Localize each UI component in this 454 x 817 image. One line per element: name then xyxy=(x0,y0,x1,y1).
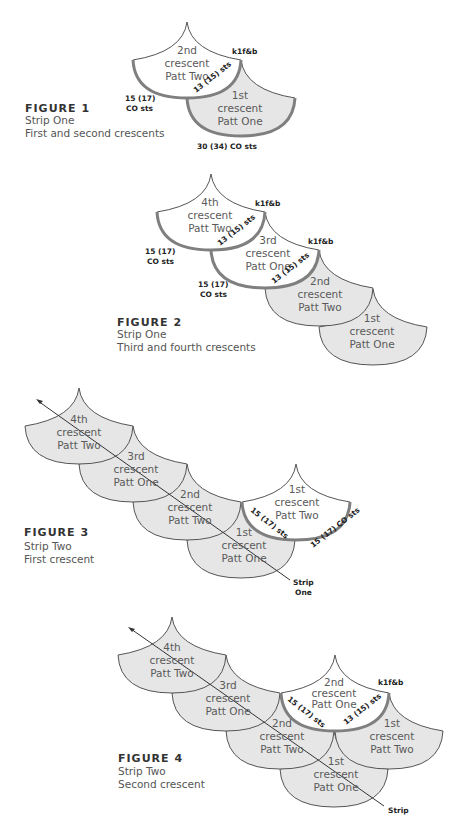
fig1-co-left: 15 (17)CO sts xyxy=(125,94,155,113)
fig3-line-2: First crescent xyxy=(24,553,94,565)
fig1-line-1: Strip One xyxy=(25,114,74,126)
fig3-strip-label: StripOne xyxy=(293,578,314,597)
fig4-line-2: Second crescent xyxy=(118,778,205,790)
fig2-k1fb-a: k1f&b xyxy=(255,199,281,208)
fig4-strip-label: Strip xyxy=(388,806,409,815)
fig2-k1fb-b: k1f&b xyxy=(308,237,334,246)
figure-2: 4thcrescentPatt Two 3rdcrescentPatt One … xyxy=(116,174,427,365)
fig1-co-bottom: 30 (34) CO sts xyxy=(197,142,257,151)
figure-1: 2ndcrescentPatt Two 1stcrescentPatt One … xyxy=(25,22,295,151)
fig3-line-1: Strip Two xyxy=(24,540,72,552)
fig4-k1fb: k1f&b xyxy=(378,678,404,687)
fig1-k1fb: k1f&b xyxy=(232,47,258,56)
fig2-co-a: 15 (17)CO sts xyxy=(145,247,175,266)
fig2-line-2: Third and fourth crescents xyxy=(116,341,256,353)
crescent-diagram: 2ndcrescentPatt Two 1stcrescentPatt One … xyxy=(0,0,454,817)
fig4-line-1: Strip Two xyxy=(118,765,166,777)
fig4-title: FIGURE 4 xyxy=(118,752,183,765)
fig2-line-1: Strip One xyxy=(117,328,166,340)
fig2-co-b: 15 (17)CO sts xyxy=(198,280,228,299)
fig3-title: FIGURE 3 xyxy=(24,526,89,539)
figure-3: 4thcrescentPatt Two 3rdcrescentPatt One … xyxy=(24,388,362,597)
figure-4: 4thcrescentPatt Two 3rdcrescentPatt One … xyxy=(118,617,443,815)
fig1-line-2: First and second crescents xyxy=(25,127,165,139)
